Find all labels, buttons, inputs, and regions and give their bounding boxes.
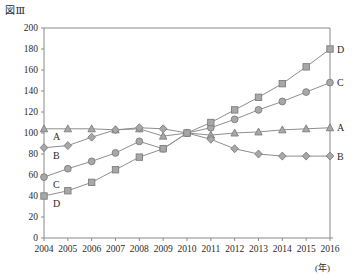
series-left-label-C: C: [53, 179, 60, 190]
data-point-square: [136, 154, 142, 160]
data-point-square: [160, 146, 166, 152]
y-tick-label: 80: [29, 149, 39, 159]
series-right-label-D: D: [337, 44, 344, 55]
data-point-diamond: [88, 133, 96, 141]
data-point-diamond: [159, 125, 167, 133]
data-point-square: [303, 64, 309, 70]
data-point-triangle: [326, 124, 333, 131]
data-point-circle: [327, 79, 334, 86]
series-labels-group: AABBCCDD: [53, 44, 345, 209]
x-tick-label: 2011: [202, 244, 221, 254]
data-point-diamond: [64, 142, 72, 150]
y-tick-label: 200: [24, 23, 39, 33]
data-point-square: [327, 46, 333, 52]
data-point-diamond: [40, 144, 48, 152]
series-left-label-D: D: [53, 198, 60, 209]
y-tick-label: 20: [29, 212, 39, 222]
data-point-circle: [41, 174, 48, 181]
data-point-square: [231, 107, 237, 113]
x-tick-label: 2005: [58, 244, 77, 254]
y-tick-label: 180: [24, 44, 39, 54]
x-tick-label: 2016: [321, 244, 340, 254]
x-tick-label: 2009: [154, 244, 173, 254]
x-tick-label: 2010: [178, 244, 197, 254]
y-tick-label: 140: [24, 86, 39, 96]
series-left-label-B: B: [53, 150, 60, 161]
y-tick-label: 100: [24, 128, 39, 138]
x-tick-label: 2004: [35, 244, 54, 254]
data-point-circle: [255, 107, 262, 114]
series-D: [41, 46, 333, 199]
x-tick-label: 2007: [106, 244, 125, 254]
x-tick-label: 2015: [297, 244, 316, 254]
x-axis-ticks: 2004200520062007200820092010201120122013…: [35, 238, 340, 254]
data-point-square: [279, 80, 285, 86]
data-point-square: [41, 193, 47, 199]
x-tick-label: 2013: [249, 244, 268, 254]
data-point-circle: [88, 158, 95, 165]
y-tick-label: 160: [24, 65, 39, 75]
data-point-diamond: [255, 150, 263, 158]
x-tick-label: 2008: [130, 244, 149, 254]
y-tick-label: 120: [24, 107, 39, 117]
y-tick-label: 0: [33, 233, 38, 243]
data-point-circle: [136, 138, 143, 145]
data-series-group: [40, 46, 334, 199]
series-left-label-A: A: [53, 131, 61, 142]
data-point-square: [255, 94, 261, 100]
figure-container: 図Ⅲ 020406080100120140160180200 200420052…: [0, 0, 361, 275]
data-point-circle: [231, 116, 238, 123]
x-axis-unit-label: (年): [315, 262, 330, 273]
x-tick-label: 2012: [225, 244, 244, 254]
series-right-label-A: A: [337, 122, 345, 133]
data-point-square: [112, 167, 118, 173]
y-tick-label: 60: [29, 170, 39, 180]
x-tick-label: 2014: [273, 244, 292, 254]
data-point-diamond: [231, 145, 239, 153]
data-point-diamond: [326, 152, 334, 160]
data-point-diamond: [302, 152, 310, 160]
data-point-circle: [112, 150, 119, 157]
data-point-square: [65, 188, 71, 194]
data-point-circle: [279, 98, 286, 105]
data-point-circle: [64, 165, 71, 172]
x-tick-label: 2006: [82, 244, 101, 254]
y-axis-ticks: 020406080100120140160180200: [24, 23, 44, 243]
data-point-square: [88, 179, 94, 185]
series-right-label-B: B: [337, 151, 344, 162]
data-point-square: [184, 130, 190, 136]
y-tick-label: 40: [29, 191, 39, 201]
data-point-square: [208, 119, 214, 125]
line-chart: 020406080100120140160180200 200420052006…: [0, 0, 361, 275]
series-right-label-C: C: [337, 77, 344, 88]
data-point-diamond: [279, 152, 287, 160]
series-line-D: [44, 49, 330, 196]
data-point-circle: [303, 89, 310, 96]
